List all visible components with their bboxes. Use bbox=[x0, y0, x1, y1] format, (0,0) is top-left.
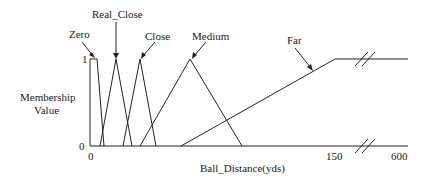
zero-arrowhead-icon bbox=[89, 52, 95, 58]
real-close-label: Real_Close bbox=[92, 8, 143, 20]
far-membership-curve bbox=[181, 59, 408, 146]
x-tick-0: 0 bbox=[88, 150, 94, 162]
medium-membership-curve bbox=[140, 59, 242, 146]
close-arrow-icon bbox=[143, 42, 155, 56]
far-label: Far bbox=[287, 34, 302, 46]
x-axis-label: Ball_Distance(yds) bbox=[200, 162, 285, 175]
close-label: Close bbox=[145, 30, 170, 42]
y-tick-1: 1 bbox=[82, 53, 88, 65]
medium-label: Medium bbox=[192, 30, 230, 42]
close-membership-curve bbox=[123, 59, 156, 146]
y-axis-label-line1: Membership bbox=[20, 91, 76, 103]
x-tick-150: 150 bbox=[326, 150, 343, 162]
x-tick-600: 600 bbox=[391, 150, 408, 162]
real-close-arrowhead-icon bbox=[113, 53, 119, 59]
y-tick-0: 0 bbox=[79, 140, 85, 152]
y-axis-label-line2: Value bbox=[34, 104, 59, 116]
far-arrowhead-icon bbox=[307, 64, 313, 71]
medium-arrow-icon bbox=[194, 42, 206, 56]
membership-function-diagram: Zero Real_Close Close Medium Far Members… bbox=[0, 0, 424, 179]
real-close-membership-curve bbox=[100, 59, 132, 146]
far-arrow-icon bbox=[295, 48, 311, 68]
zero-label: Zero bbox=[69, 28, 90, 40]
